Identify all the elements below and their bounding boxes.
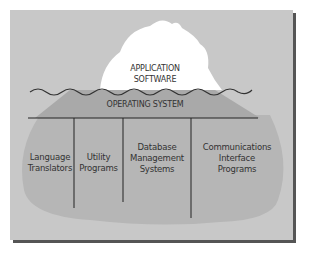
base-col-line: Programs xyxy=(74,163,123,174)
base-col-language-translators: Language Translators xyxy=(24,152,76,174)
base-col-utility-programs: Utility Programs xyxy=(74,152,123,174)
base-col-line: Management xyxy=(123,153,191,164)
base-col-line: Programs xyxy=(191,164,283,175)
base-col-line: Database xyxy=(123,142,191,153)
base-col-communications: Communications Interface Programs xyxy=(191,142,283,175)
base-col-line: Utility xyxy=(74,152,123,163)
base-col-line: Language xyxy=(24,152,76,163)
tip-line-1: APPLICATION xyxy=(110,63,200,74)
base-col-line: Systems xyxy=(123,164,191,175)
base-col-dbms: Database Management Systems xyxy=(123,142,191,175)
tip-line-2: SOFTWARE xyxy=(110,74,200,85)
iceberg-illustration xyxy=(10,10,293,240)
diagram-frame: APPLICATION SOFTWARE OPERATING SYSTEM La… xyxy=(10,10,293,240)
base-col-line: Communications xyxy=(191,142,283,153)
tip-label: APPLICATION SOFTWARE xyxy=(110,63,200,85)
base-col-line: Interface xyxy=(191,153,283,164)
os-label: OPERATING SYSTEM xyxy=(65,99,225,110)
base-col-line: Translators xyxy=(24,163,76,174)
